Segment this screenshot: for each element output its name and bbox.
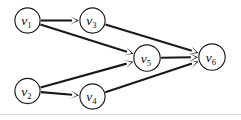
- edge-v2-v4: [41, 90, 79, 99]
- edge-v2-v5-line: [41, 64, 127, 88]
- edge-group: [40, 16, 198, 99]
- node-v5[interactable]: v5: [134, 45, 160, 71]
- node-v4-subscript: 4: [92, 96, 97, 106]
- node-v3-subscript: 3: [92, 20, 96, 30]
- graph-canvas: v1 v2 v3 v4 v5 v6: [0, 0, 241, 120]
- directed-graph-figure: v1 v2 v3 v4 v5 v6: [0, 0, 241, 120]
- node-v6[interactable]: v6: [199, 44, 225, 70]
- node-v1[interactable]: v1: [15, 8, 40, 33]
- node-v1-subscript: 1: [27, 20, 31, 30]
- node-v5-subscript: 5: [147, 58, 151, 68]
- node-v2[interactable]: v2: [15, 78, 40, 103]
- node-v2-subscript: 2: [27, 91, 31, 101]
- node-v4[interactable]: v4: [80, 84, 105, 109]
- node-v3[interactable]: v3: [80, 8, 105, 33]
- edge-v2-v5: [41, 60, 134, 87]
- node-v6-subscript: 6: [212, 57, 217, 67]
- edge-v2-v4-line: [41, 92, 72, 95]
- node-group: v1 v2 v3 v4 v5 v6: [15, 8, 225, 109]
- edge-v5-v6: [161, 53, 198, 62]
- edge-v1-v3: [41, 16, 79, 25]
